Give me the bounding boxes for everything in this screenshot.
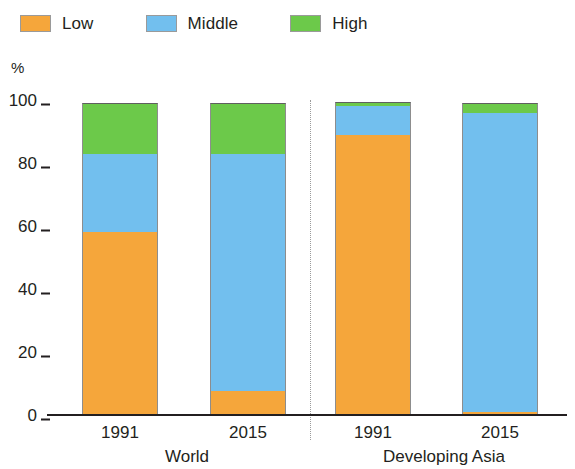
x-axis-labels: 1991 2015 1991 2015 bbox=[57, 423, 567, 447]
bar-segment-high bbox=[82, 103, 158, 153]
legend-label-high: High bbox=[332, 15, 367, 32]
y-tick-dash-icon bbox=[41, 103, 50, 105]
chart-legend: Low Middle High bbox=[20, 12, 368, 34]
bar-segment-middle bbox=[335, 106, 411, 134]
y-tick-dash-icon bbox=[41, 292, 50, 294]
square-swatch-icon-low bbox=[20, 15, 51, 32]
bar-segment-high bbox=[462, 103, 538, 112]
y-tick-dash-icon bbox=[41, 418, 50, 420]
y-tick-dash-icon bbox=[41, 229, 50, 231]
plot-area: 100 80 60 40 20 0 bbox=[57, 100, 567, 415]
y-axis-unit-label: % bbox=[11, 60, 24, 75]
bar-segment-low bbox=[210, 391, 286, 415]
bar-developing-asia-2015 bbox=[462, 100, 538, 415]
y-tick-dash-icon bbox=[41, 355, 50, 357]
bar-segment-low bbox=[82, 232, 158, 415]
bar-segment-low bbox=[335, 135, 411, 415]
x-label-developing-asia-1991: 1991 bbox=[318, 423, 428, 442]
group-divider-line bbox=[310, 100, 311, 440]
legend-item-low: Low bbox=[20, 15, 94, 32]
y-tick-100: 100 bbox=[9, 92, 57, 109]
x-label-world-2015: 2015 bbox=[193, 423, 303, 442]
stacked-bar-chart: Low Middle High % 100 80 60 40 20 0 bbox=[0, 0, 575, 469]
y-tick-60: 60 bbox=[18, 218, 57, 235]
bar-segment-middle bbox=[210, 154, 286, 392]
bar-segment-high bbox=[210, 103, 286, 153]
group-label-world: World bbox=[67, 447, 307, 466]
bar-world-2015 bbox=[210, 100, 286, 415]
legend-item-high: High bbox=[290, 15, 367, 32]
legend-item-middle: Middle bbox=[146, 15, 239, 32]
y-tick-dash-icon bbox=[41, 166, 50, 168]
bar-developing-asia-1991 bbox=[335, 100, 411, 415]
bar-segment-middle bbox=[462, 113, 538, 412]
x-label-world-1991: 1991 bbox=[65, 423, 175, 442]
bar-world-1991 bbox=[82, 100, 158, 415]
square-swatch-icon-middle bbox=[146, 15, 177, 32]
legend-label-middle: Middle bbox=[188, 15, 239, 32]
square-swatch-icon-high bbox=[290, 15, 321, 32]
x-label-developing-asia-2015: 2015 bbox=[445, 423, 555, 442]
x-axis-baseline bbox=[47, 414, 567, 416]
bar-segment-middle bbox=[82, 154, 158, 233]
y-tick-40: 40 bbox=[18, 281, 57, 298]
legend-label-low: Low bbox=[62, 15, 94, 32]
y-tick-80: 80 bbox=[18, 155, 57, 172]
y-tick-20: 20 bbox=[18, 344, 57, 361]
group-label-developing-asia: Developing Asia bbox=[324, 447, 564, 466]
x-axis-group-labels: World Developing Asia bbox=[57, 447, 567, 469]
